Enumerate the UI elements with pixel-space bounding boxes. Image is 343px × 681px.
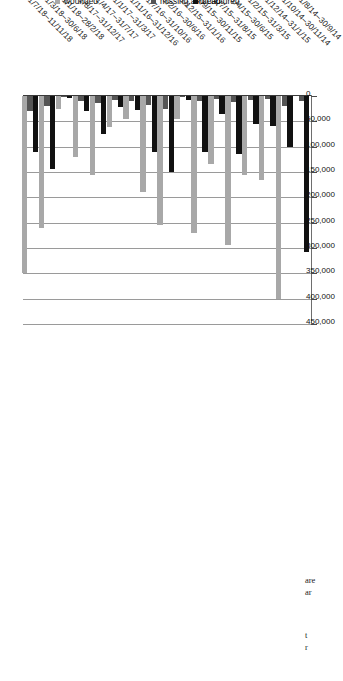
legend-label: wounded	[64, 0, 98, 6]
bar-wounded	[157, 96, 162, 225]
bar-wounded	[22, 96, 27, 273]
bar-missing-and-captured	[163, 96, 168, 109]
bar-wounded	[124, 96, 129, 119]
bar-wounded	[259, 96, 264, 180]
axis-tick-label: 300,000	[306, 241, 335, 250]
bar-missing-and-captured	[214, 96, 219, 99]
bar-missing-and-captured	[265, 96, 270, 99]
bar-missing-and-captured	[112, 96, 117, 100]
axis-tick-label: 350,000	[306, 266, 335, 275]
gridline	[23, 121, 311, 122]
bar-missing-and-captured	[282, 96, 287, 106]
bar-dead	[67, 96, 72, 98]
caption-fragment: ar	[305, 587, 312, 597]
bar-missing-and-captured	[61, 96, 66, 97]
bar-wounded	[242, 96, 247, 175]
axis-tick	[311, 96, 317, 97]
bar-dead	[202, 96, 207, 152]
bar-dead	[50, 96, 55, 169]
category-axis: 1/8/14–30/9/141/10/14–30/11/141/12/14–31…	[0, 0, 323, 95]
bar-wounded	[73, 96, 78, 157]
gridline	[23, 248, 311, 249]
bar-dead	[152, 96, 157, 152]
bar-missing-and-captured	[146, 96, 151, 105]
caption-fragment: are	[305, 575, 315, 585]
bar-dead	[135, 96, 140, 110]
bar-dead	[169, 96, 174, 172]
bar-wounded	[191, 96, 196, 233]
bar-dead	[236, 96, 241, 154]
bar-missing-and-captured	[299, 96, 304, 101]
legend-swatch-icon	[151, 0, 156, 4]
bar-dead	[253, 96, 258, 124]
gridline	[23, 223, 311, 224]
gridline	[23, 147, 311, 148]
gridline	[23, 299, 311, 300]
bar-wounded	[56, 96, 61, 109]
bar-dead	[101, 96, 106, 134]
gridline	[23, 197, 311, 198]
bar-wounded	[140, 96, 145, 192]
bar-missing-and-captured	[78, 96, 83, 101]
axis-tick-label: 450,000	[306, 317, 335, 326]
gridline	[23, 324, 311, 325]
bar-missing-and-captured	[197, 96, 202, 101]
legend-item-wounded[interactable]: wounded	[55, 0, 98, 6]
bar-wounded	[276, 96, 281, 299]
bar-dead	[287, 96, 292, 147]
bar-wounded	[174, 96, 179, 119]
axis-tick-label: 50,000	[306, 114, 330, 123]
legend-swatch-icon	[55, 0, 60, 4]
plot-area	[23, 95, 311, 681]
caption-fragment: r	[305, 642, 308, 652]
legend-label: missing and captured	[160, 0, 240, 6]
axis-tick-label: 250,000	[306, 216, 335, 225]
bar-wounded	[90, 96, 95, 175]
bar-dead	[84, 96, 89, 111]
bar-missing-and-captured	[44, 96, 49, 106]
bar-dead	[270, 96, 275, 126]
bar-dead	[186, 96, 191, 100]
bar-missing-and-captured	[95, 96, 100, 103]
bar-missing-and-captured	[248, 96, 253, 100]
legend-item-missing-and-captured[interactable]: missing and captured	[151, 0, 240, 6]
gridline	[23, 172, 311, 173]
bar-missing-and-captured	[129, 96, 134, 101]
axis-tick-label: 100,000	[306, 140, 335, 149]
bar-dead	[219, 96, 224, 114]
bar-missing-and-captured	[27, 96, 32, 111]
gridline	[23, 273, 311, 274]
caption-fragment: t	[305, 630, 307, 640]
bar-missing-and-captured	[231, 96, 236, 102]
axis-tick-label: 400,000	[306, 292, 335, 301]
bar-wounded	[39, 96, 44, 228]
bar-missing-and-captured	[180, 96, 185, 97]
axis-tick-label: 150,000	[306, 165, 335, 174]
bar-wounded	[208, 96, 213, 164]
bar-wounded	[107, 96, 112, 127]
bar-wounded	[225, 96, 230, 245]
bar-dead	[118, 96, 123, 107]
bar-dead	[33, 96, 38, 152]
axis-tick-label: 0	[306, 89, 310, 98]
axis-tick-label: 200,000	[306, 190, 335, 199]
